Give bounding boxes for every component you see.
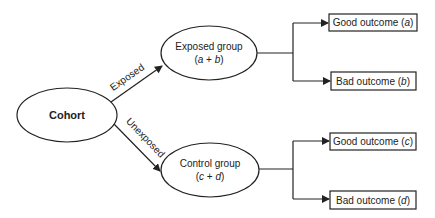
unexposed-edge-label: Unexposed	[124, 116, 167, 160]
cohort-label: Cohort	[49, 109, 85, 121]
svg-text:Bad outcome (b): Bad outcome (b)	[336, 76, 410, 87]
control-group-formula: (c + d)	[196, 171, 225, 182]
cohort-study-diagram: Cohort Exposed Unexposed Exposed group (…	[0, 0, 435, 218]
exposed-group-node: Exposed group (a + b)	[161, 26, 257, 80]
outcome-good-c: Good outcome (c)	[330, 133, 416, 150]
control-branch-connector	[259, 141, 329, 199]
exposed-branch-connector	[257, 23, 330, 81]
control-group-node: Control group (c + d)	[161, 143, 259, 197]
cohort-node: Cohort	[17, 88, 117, 142]
control-group-title: Control group	[180, 158, 241, 169]
svg-text:Good outcome (c): Good outcome (c)	[333, 136, 413, 147]
outcome-good-a: Good outcome (a)	[329, 14, 417, 31]
exposed-edge: Exposed	[108, 61, 162, 102]
outcome-bad-d: Bad outcome (d)	[330, 191, 416, 209]
svg-text:Bad outcome (d): Bad outcome (d)	[336, 195, 410, 206]
outcome-bad-b: Bad outcome (b)	[331, 72, 416, 90]
exposed-group-title: Exposed group	[175, 41, 243, 52]
exposed-edge-label: Exposed	[108, 61, 146, 92]
exposed-group-formula: (a + b)	[194, 54, 223, 65]
unexposed-edge: Unexposed	[114, 116, 167, 171]
svg-text:Good outcome (a): Good outcome (a)	[333, 17, 414, 28]
